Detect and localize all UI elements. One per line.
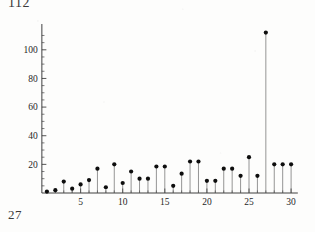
y-tick-label: 40 bbox=[28, 131, 38, 141]
data-point bbox=[255, 174, 259, 178]
data-point bbox=[129, 169, 133, 173]
stem-plot-svg: 20406080100 51015202530 bbox=[0, 0, 315, 206]
bottom-left-annotation: 27 bbox=[8, 208, 22, 222]
data-point bbox=[171, 184, 175, 188]
data-point bbox=[87, 178, 91, 182]
data-markers bbox=[45, 31, 293, 194]
x-tick-label: 25 bbox=[244, 197, 254, 206]
data-point bbox=[264, 31, 268, 35]
x-tick-label: 20 bbox=[202, 197, 212, 206]
data-point bbox=[121, 181, 125, 185]
data-point bbox=[272, 162, 276, 166]
data-point bbox=[247, 155, 251, 159]
data-stems bbox=[47, 33, 291, 193]
x-tick-label: 10 bbox=[118, 197, 128, 206]
data-point bbox=[104, 185, 108, 189]
x-tick-label: 30 bbox=[286, 197, 296, 206]
data-point bbox=[213, 179, 217, 183]
y-tick-label: 60 bbox=[28, 102, 38, 112]
data-point bbox=[53, 188, 57, 192]
data-point bbox=[146, 177, 150, 181]
data-point bbox=[196, 159, 200, 163]
data-point bbox=[230, 167, 234, 171]
data-point bbox=[289, 162, 293, 166]
y-tick-label: 80 bbox=[28, 74, 38, 84]
data-point bbox=[188, 159, 192, 163]
data-point bbox=[79, 182, 83, 186]
data-point bbox=[180, 172, 184, 176]
y-axis: 20406080100 bbox=[24, 24, 47, 193]
x-axis: 51015202530 bbox=[42, 189, 298, 207]
plot-area: 20406080100 51015202530 bbox=[0, 0, 315, 206]
data-point bbox=[137, 177, 141, 181]
data-point bbox=[281, 162, 285, 166]
data-point bbox=[95, 167, 99, 171]
x-tick-label: 15 bbox=[160, 197, 170, 206]
data-point bbox=[238, 174, 242, 178]
y-tick-label: 100 bbox=[24, 45, 39, 55]
data-point bbox=[163, 164, 167, 168]
data-point bbox=[112, 162, 116, 166]
chart-figure: 112 20406080100 51015202530 27 bbox=[0, 0, 315, 232]
data-point bbox=[62, 179, 66, 183]
x-tick-label: 5 bbox=[78, 197, 83, 206]
data-point bbox=[45, 189, 49, 193]
data-point bbox=[154, 164, 158, 168]
data-point bbox=[205, 179, 209, 183]
data-point bbox=[222, 167, 226, 171]
y-tick-label: 20 bbox=[28, 160, 38, 170]
data-point bbox=[70, 187, 74, 191]
